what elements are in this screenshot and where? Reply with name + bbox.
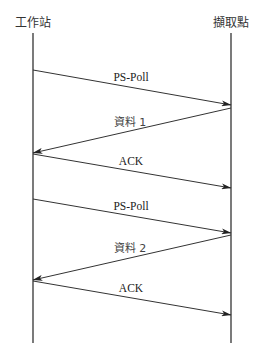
message-label-data-1: 資料 1 bbox=[114, 116, 147, 129]
actor-label-access-point: 擷取點 bbox=[213, 16, 249, 30]
message-label-ps-poll-1: PS-Poll bbox=[113, 71, 148, 84]
sequence-diagram: 工作站 擷取點 PS-Poll 資料 1 ACK PS-Poll 資料 2 AC… bbox=[0, 0, 263, 358]
message-label-data-2: 資料 2 bbox=[114, 242, 147, 255]
actor-label-station: 工作站 bbox=[15, 16, 51, 30]
message-label-ack-1: ACK bbox=[119, 155, 143, 168]
message-arrow-2 bbox=[33, 108, 231, 153]
messages bbox=[33, 70, 231, 315]
message-label-ps-poll-2: PS-Poll bbox=[113, 200, 148, 213]
message-label-ack-2: ACK bbox=[119, 282, 143, 295]
diagram-canvas bbox=[0, 0, 263, 358]
